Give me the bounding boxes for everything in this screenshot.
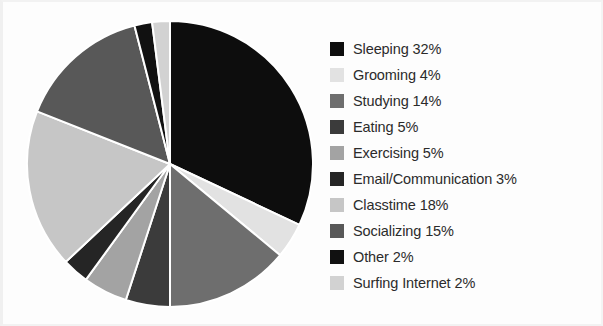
legend-color-swatch (330, 94, 344, 108)
legend-color-swatch (330, 250, 344, 264)
legend-item: Studying 14% (330, 88, 598, 114)
legend-item: Socializing 15% (330, 218, 598, 244)
legend-item-label: Email/Communication 3% (353, 171, 517, 187)
legend-item-label: Socializing 15% (353, 223, 454, 239)
legend-item: Classtime 18% (330, 192, 598, 218)
legend-item-label: Sleeping 32% (353, 41, 441, 57)
legend-item: Surfing Internet 2% (330, 270, 598, 296)
chart-legend: Sleeping 32%Grooming 4%Studying 14%Eatin… (330, 36, 598, 296)
legend-color-swatch (330, 42, 344, 56)
legend-item: Sleeping 32% (330, 36, 598, 62)
legend-item: Exercising 5% (330, 140, 598, 166)
legend-color-swatch (330, 172, 344, 186)
legend-color-swatch (330, 120, 344, 134)
pie-chart-area (20, 14, 320, 314)
legend-item-label: Classtime 18% (353, 197, 448, 213)
pie-slice-group (27, 21, 313, 307)
legend-item-label: Eating 5% (353, 119, 418, 135)
legend-color-swatch (330, 224, 344, 238)
legend-item-label: Surfing Internet 2% (353, 275, 475, 291)
legend-item: Eating 5% (330, 114, 598, 140)
pie-chart-screenshot: Sleeping 32%Grooming 4%Studying 14%Eatin… (0, 0, 603, 326)
legend-item-label: Exercising 5% (353, 145, 444, 161)
legend-color-swatch (330, 198, 344, 212)
legend-item: Email/Communication 3% (330, 166, 598, 192)
legend-color-swatch (330, 68, 344, 82)
legend-color-swatch (330, 146, 344, 160)
legend-item-label: Studying 14% (353, 93, 441, 109)
legend-item-label: Grooming 4% (353, 67, 441, 83)
legend-color-swatch (330, 276, 344, 290)
pie-chart-svg (20, 14, 320, 314)
legend-item-label: Other 2% (353, 249, 413, 265)
legend-item: Grooming 4% (330, 62, 598, 88)
legend-item: Other 2% (330, 244, 598, 270)
